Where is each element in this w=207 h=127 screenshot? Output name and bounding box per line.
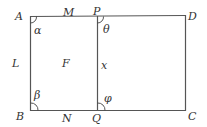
angle-arc-beta: [31, 103, 39, 111]
side-label-L: L: [11, 57, 19, 70]
vertex-label-B: B: [15, 110, 24, 123]
vertex-label-D: D: [187, 10, 197, 23]
angle-arc-alpha: [31, 17, 37, 24]
vertex-label-A: A: [14, 10, 23, 23]
edge-top-AD: [30, 16, 185, 17]
angle-label-alpha: α: [34, 24, 42, 37]
region-label-F: F: [61, 57, 70, 70]
angle-label-phi: φ: [104, 92, 112, 105]
vertex-label-Q: Q: [92, 112, 101, 125]
side-label-M: M: [62, 6, 75, 19]
vertex-label-P: P: [92, 5, 101, 18]
side-label-x: x: [101, 59, 108, 72]
side-label-N: N: [61, 112, 72, 125]
angle-label-beta: β: [33, 89, 40, 102]
vertex-label-C: C: [188, 110, 197, 123]
angle-label-theta: θ: [103, 23, 110, 36]
geometry-diagram: A M P D α θ L F x β φ B N Q C: [0, 0, 207, 127]
